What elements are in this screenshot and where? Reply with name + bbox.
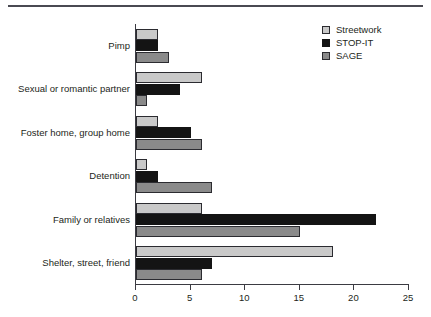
- legend-swatch-icon: [322, 39, 330, 47]
- x-tick-label: 20: [348, 292, 359, 303]
- bar: [136, 226, 300, 237]
- legend-label: SAGE: [336, 50, 362, 61]
- category-label: Detention: [89, 170, 130, 182]
- legend-item: Streetwork: [322, 24, 427, 35]
- bar-group: [136, 159, 409, 193]
- category-label: Pimp: [108, 40, 130, 52]
- x-tick-mark: [353, 285, 354, 290]
- x-tick-label: 5: [187, 292, 192, 303]
- legend-label: STOP-IT: [336, 37, 373, 48]
- legend-item: STOP-IT: [322, 37, 427, 48]
- bar-group: [136, 203, 409, 237]
- bar: [136, 29, 158, 40]
- x-tick-mark: [135, 285, 136, 290]
- bar: [136, 203, 202, 214]
- bar: [136, 269, 202, 280]
- x-tick-label: 0: [132, 292, 137, 303]
- x-axis-line: [135, 284, 409, 285]
- x-tick-label: 15: [294, 292, 305, 303]
- bar: [136, 95, 147, 106]
- bar: [136, 258, 212, 269]
- legend-item: SAGE: [322, 50, 427, 61]
- bar: [136, 182, 212, 193]
- category-label: Family or relatives: [53, 214, 130, 226]
- bar: [136, 72, 202, 83]
- x-tick-mark: [190, 285, 191, 290]
- x-tick-mark: [408, 285, 409, 290]
- bar: [136, 246, 333, 257]
- category-label: Sexual or romantic partner: [18, 83, 130, 95]
- x-tick-label: 10: [239, 292, 250, 303]
- bar: [136, 84, 180, 95]
- bar: [136, 40, 158, 51]
- bar: [136, 127, 191, 138]
- bar: [136, 116, 158, 127]
- bar-group: [136, 246, 409, 280]
- bar: [136, 171, 158, 182]
- legend-swatch-icon: [322, 26, 330, 34]
- x-tick-mark: [244, 285, 245, 290]
- bar: [136, 52, 169, 63]
- bar: [136, 159, 147, 170]
- bar: [136, 214, 376, 225]
- legend-label: Streetwork: [336, 24, 381, 35]
- x-tick-label: 25: [403, 292, 414, 303]
- bar-group: [136, 72, 409, 106]
- bar: [136, 139, 202, 150]
- category-label: Shelter, street, friend: [42, 257, 130, 269]
- bar-group: [136, 116, 409, 150]
- category-label: Foster home, group home: [21, 127, 130, 139]
- legend-swatch-icon: [322, 52, 330, 60]
- x-tick-mark: [299, 285, 300, 290]
- category-axis-labels: PimpSexual or romantic partnerFoster hom…: [0, 0, 130, 317]
- chart-legend: StreetworkSTOP-ITSAGE: [322, 24, 427, 63]
- bar-chart-figure: PimpSexual or romantic partnerFoster hom…: [0, 0, 431, 317]
